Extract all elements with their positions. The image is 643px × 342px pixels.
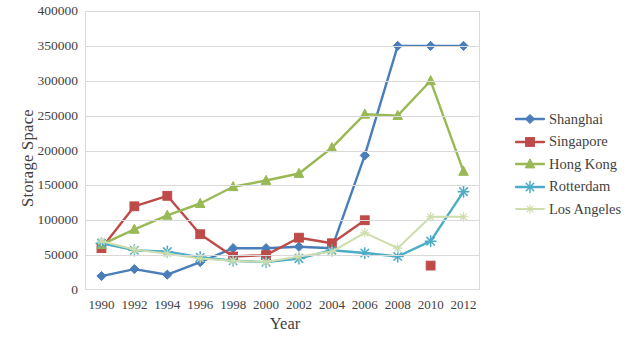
data-point-marker xyxy=(459,166,469,175)
x-axis-tick-label: 2000 xyxy=(253,298,279,311)
data-point-marker xyxy=(525,115,534,124)
legend-marker-icon xyxy=(515,112,545,126)
series-shanghai xyxy=(97,41,468,280)
data-point-marker xyxy=(97,271,106,280)
data-point-marker xyxy=(130,245,138,253)
data-point-marker xyxy=(130,264,139,273)
gridline xyxy=(85,46,480,47)
data-point-marker xyxy=(97,237,105,245)
data-point-marker xyxy=(294,242,303,251)
data-point-marker xyxy=(526,205,534,213)
data-point-marker xyxy=(525,181,536,192)
x-axis-tick-label: 2012 xyxy=(451,298,477,311)
y-axis-tick-label: 50000 xyxy=(44,248,78,262)
legend-marker-icon xyxy=(515,157,545,171)
y-axis-tick-label: 400000 xyxy=(38,4,79,18)
data-point-marker xyxy=(262,258,270,266)
x-axis-tick-label: 2006 xyxy=(352,298,378,311)
data-point-marker xyxy=(425,236,436,247)
x-axis-tick-label: 2002 xyxy=(286,298,312,311)
legend-marker-icon xyxy=(515,202,545,216)
data-point-marker xyxy=(360,151,369,160)
legend-item-hong-kong[interactable]: Hong Kong xyxy=(515,153,643,176)
legend-item-rotterdam[interactable]: Rotterdam xyxy=(515,176,643,199)
legend-label: Singapore xyxy=(549,133,608,150)
data-point-marker xyxy=(130,202,139,211)
data-point-marker xyxy=(163,250,171,258)
data-point-marker xyxy=(361,229,369,237)
x-axis-title: Year xyxy=(170,314,400,334)
y-axis-tick-label: 150000 xyxy=(38,178,79,192)
gridline xyxy=(85,81,480,82)
data-point-marker xyxy=(196,230,205,239)
x-axis-tick-label: 2008 xyxy=(385,298,411,311)
data-point-marker xyxy=(458,186,469,197)
legend-label: Hong Kong xyxy=(549,156,617,173)
x-axis-tick-label: 2004 xyxy=(319,298,345,311)
data-point-marker xyxy=(163,191,172,200)
x-axis-tick-label: 1998 xyxy=(220,298,246,311)
y-axis-tick-label: 200000 xyxy=(38,144,79,158)
y-axis-tick-label: 250000 xyxy=(38,109,79,123)
plot-area xyxy=(85,11,480,290)
x-axis-tick-labels: 1990199219941996199820002002200420062008… xyxy=(0,294,643,316)
data-point-marker xyxy=(229,244,238,253)
series-hong-kong xyxy=(97,76,469,249)
legend-marker-icon xyxy=(515,180,545,194)
data-point-marker xyxy=(295,252,303,260)
data-point-marker xyxy=(295,233,304,242)
gridline xyxy=(85,255,480,256)
data-point-marker xyxy=(359,248,370,259)
legend-label: Los Angeles xyxy=(549,201,621,218)
data-point-marker xyxy=(426,261,435,270)
legend-item-singapore[interactable]: Singapore xyxy=(515,131,643,154)
x-axis-tick-label: 1996 xyxy=(187,298,213,311)
legend-marker-icon xyxy=(515,135,545,149)
y-axis-tick-labels: 0500001000001500002000002500003000003500… xyxy=(0,0,83,300)
line-chart: Storage Space 05000010000015000020000025… xyxy=(0,0,643,342)
legend-label: Rotterdam xyxy=(549,178,610,195)
gridline xyxy=(85,116,480,117)
chart-legend: ShanghaiSingaporeHong KongRotterdamLos A… xyxy=(515,108,643,221)
x-axis-tick-label: 2010 xyxy=(418,298,444,311)
legend-item-shanghai[interactable]: Shanghai xyxy=(515,108,643,131)
x-axis-tick-label: 1992 xyxy=(121,298,147,311)
data-point-marker xyxy=(394,244,402,252)
y-axis-tick-label: 100000 xyxy=(38,213,79,227)
y-axis-tick-label: 350000 xyxy=(38,39,79,53)
x-axis-tick-label: 1990 xyxy=(88,298,114,311)
data-point-marker xyxy=(229,257,237,265)
data-point-marker xyxy=(526,137,535,146)
legend-label: Shanghai xyxy=(549,111,603,128)
legend-item-los-angeles[interactable]: Los Angeles xyxy=(515,198,643,221)
data-point-marker xyxy=(163,270,172,279)
x-axis-tick-label: 1994 xyxy=(154,298,180,311)
gridline xyxy=(85,220,480,221)
gridline xyxy=(85,11,480,12)
gridline xyxy=(85,151,480,152)
gridline xyxy=(85,185,480,186)
y-axis-tick-label: 300000 xyxy=(38,74,79,88)
